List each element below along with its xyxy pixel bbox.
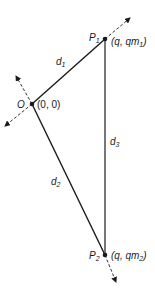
triangle-diagram: P1 (q, qm1) O (0, 0) P2 (q, qm2) d1 d2 d… (0, 0, 155, 292)
coords-o: (0, 0) (37, 99, 60, 110)
vertex-o (30, 102, 35, 107)
label-p2: P2 (89, 250, 100, 262)
label-o: O (17, 99, 25, 110)
edge-d1 (32, 39, 105, 104)
vertex-p1 (103, 37, 108, 42)
coords-p1: (q, qm1) (111, 36, 147, 48)
label-p1: P1 (89, 32, 100, 44)
label-d3: d3 (110, 136, 120, 148)
label-d1: d1 (56, 56, 66, 68)
edge-d2 (32, 104, 105, 255)
coords-p2: (q, qm2) (111, 250, 147, 262)
label-d2: d2 (51, 176, 61, 188)
vertex-p2 (103, 253, 108, 258)
